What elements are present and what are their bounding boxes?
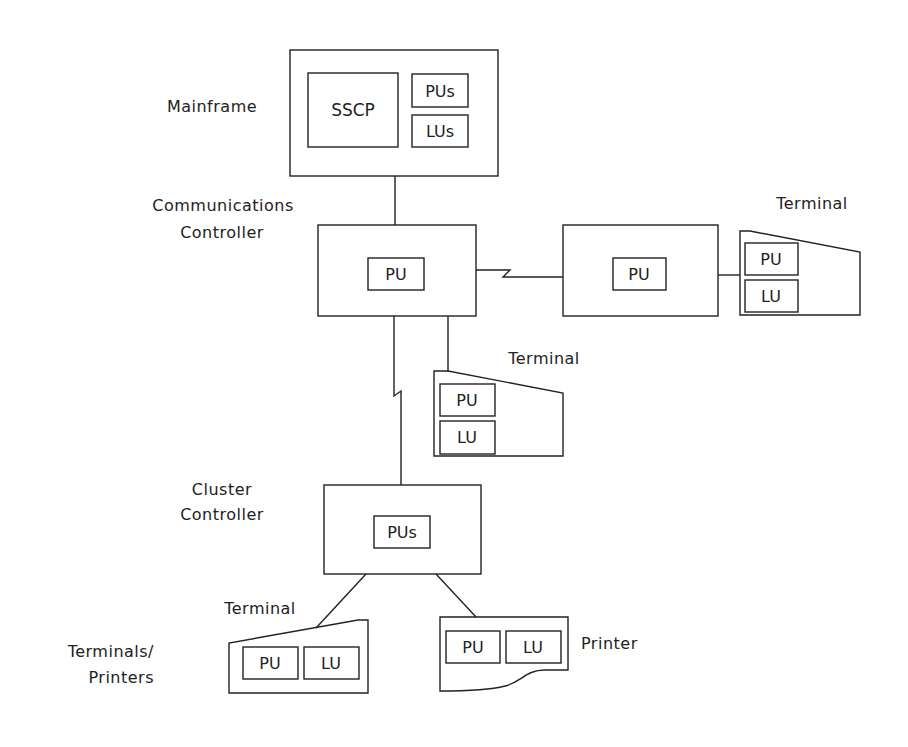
cluster-controller-label-line1: Cluster (192, 480, 252, 499)
printer-pu-label: PU (462, 638, 483, 657)
remote-controller-pu-label: PU (628, 265, 649, 284)
mainframe-node: SSCP PUs LUs (290, 50, 498, 176)
mainframe-lus-label: LUs (426, 122, 454, 141)
printer-label: Printer (581, 634, 638, 653)
printer-lu-label: LU (523, 638, 543, 657)
comm-controller-pu-label: PU (385, 265, 406, 284)
bottom-terminal-node: PU LU (229, 620, 368, 693)
middle-terminal-node: PU LU (434, 371, 563, 456)
cluster-controller-node: PUs (324, 485, 481, 574)
bottom-terminal-pu-label: PU (259, 654, 280, 673)
mainframe-label: Mainframe (167, 97, 257, 116)
right-terminal-node: PU LU (740, 231, 860, 315)
printer-link (436, 574, 476, 617)
bottom-terminal-label: Terminal (223, 599, 296, 618)
right-terminal-lu-label: LU (761, 287, 781, 306)
sscp-label: SSCP (331, 100, 375, 120)
terminals-printers-label-line1: Terminals/ (67, 642, 154, 661)
remote-link (476, 270, 563, 277)
sna-network-diagram: SSCP PUs LUs Mainframe Communications Co… (0, 0, 908, 747)
terminals-printers-label-line2: Printers (88, 668, 154, 687)
cluster-controller-pus-label: PUs (387, 523, 417, 542)
middle-terminal-pu-label: PU (456, 391, 477, 410)
comm-controller-node: PU (318, 225, 476, 316)
right-terminal-pu-label: PU (760, 250, 781, 269)
cluster-controller-label-line2: Controller (180, 505, 264, 524)
middle-terminal-lu-label: LU (457, 428, 477, 447)
bottom-terminal-lu-label: LU (321, 654, 341, 673)
middle-terminal-label: Terminal (507, 349, 580, 368)
cluster-link (394, 316, 401, 485)
right-terminal-label: Terminal (775, 194, 848, 213)
comm-controller-label-line2: Controller (180, 223, 264, 242)
comm-controller-label-line1: Communications (152, 196, 293, 215)
printer-node: PU LU (440, 617, 568, 691)
remote-controller-node: PU (563, 225, 718, 316)
mainframe-pus-label: PUs (425, 82, 455, 101)
